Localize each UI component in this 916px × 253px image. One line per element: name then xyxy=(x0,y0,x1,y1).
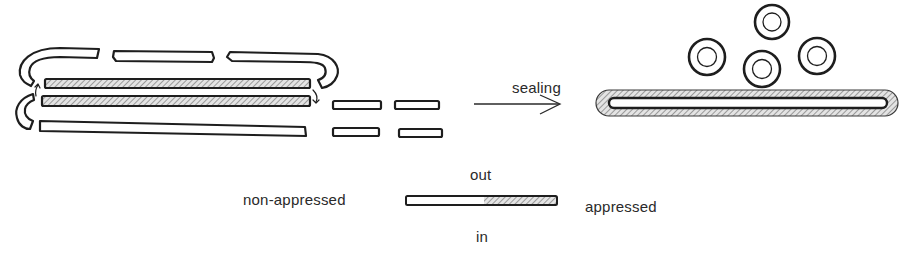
legend-appressed-label: appressed xyxy=(585,198,657,215)
legend-non-appressed-label: non-appressed xyxy=(243,191,346,208)
sealing-arrow xyxy=(474,95,560,114)
legend-in-label: in xyxy=(476,228,488,245)
membrane-fragments xyxy=(333,101,442,137)
sealing-label: sealing xyxy=(512,79,561,96)
bottom-long-membrane xyxy=(40,121,306,136)
legend-out-label: out xyxy=(470,166,491,183)
fragment-1 xyxy=(333,101,381,109)
appressed-membrane-2 xyxy=(42,96,310,106)
sealed-vesicles xyxy=(689,5,835,87)
vesicle-4 xyxy=(799,38,835,74)
vesicle-2 xyxy=(689,39,725,75)
vesicle-1 xyxy=(755,5,789,39)
stacked-membranes xyxy=(16,48,338,136)
fragment-4 xyxy=(399,129,442,137)
sealed-appressed-sheet xyxy=(596,90,898,116)
legend-membrane xyxy=(406,196,557,205)
top-middle-segment xyxy=(113,51,214,62)
appressed-membrane-1 xyxy=(45,79,310,88)
vesicle-3 xyxy=(744,51,780,87)
lower-left-curved-membrane xyxy=(16,94,34,129)
fragment-2 xyxy=(395,101,439,109)
diagram-canvas xyxy=(0,0,916,253)
fragment-3 xyxy=(333,128,379,136)
